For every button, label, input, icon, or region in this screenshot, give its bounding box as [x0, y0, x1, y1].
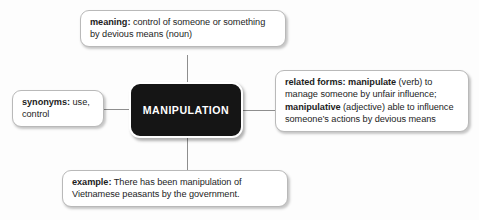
center-node-manipulation[interactable]: MANIPULATION — [129, 82, 243, 138]
node-related-forms-term-manipulative: manipulative — [285, 102, 341, 112]
node-synonyms[interactable]: synonyms: use, control — [12, 90, 104, 127]
connector-center-to-related-forms — [243, 110, 276, 111]
center-node-label: MANIPULATION — [143, 104, 229, 116]
node-related-forms[interactable]: related forms: manipulate (verb) to mana… — [275, 70, 469, 132]
node-meaning[interactable]: meaning: control of someone or something… — [80, 10, 286, 47]
node-related-forms-heading: related forms: — [285, 77, 346, 87]
node-example-heading: example: — [72, 177, 111, 187]
connector-center-to-example — [187, 138, 188, 171]
connector-center-to-synonyms — [104, 109, 130, 110]
connector-center-to-meaning — [187, 55, 188, 83]
word-web-diagram: MANIPULATION meaning: control of someone… — [0, 0, 479, 220]
node-related-forms-term-manipulate: manipulate — [346, 77, 397, 87]
node-example[interactable]: example: There has been manipulation of … — [62, 170, 288, 207]
node-meaning-heading: meaning: — [90, 17, 130, 27]
node-synonyms-heading: synonyms: — [22, 97, 70, 107]
